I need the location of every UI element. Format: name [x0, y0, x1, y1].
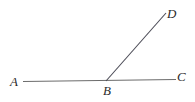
geometry-figure: A B C D: [0, 0, 195, 102]
figure-canvas: [0, 0, 195, 102]
point-label-d: D: [167, 7, 176, 20]
segment-bd-line: [106, 13, 166, 81]
segment-ac-line: [23, 80, 176, 82]
point-label-c: C: [177, 70, 186, 83]
point-label-a: A: [10, 75, 18, 88]
point-label-b: B: [103, 84, 111, 97]
